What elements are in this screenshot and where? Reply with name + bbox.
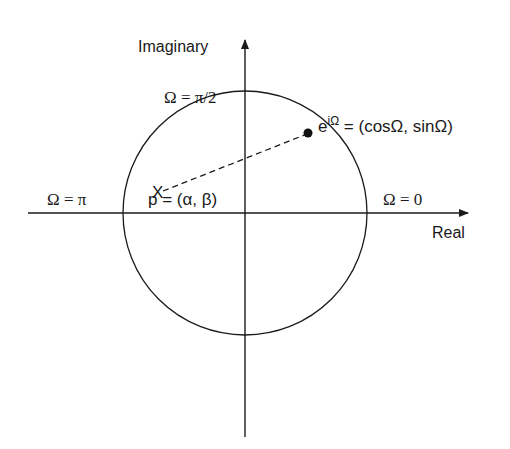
point-on-circle-label: eiΩ = (cosΩ, sinΩ) (318, 114, 453, 136)
unit-circle-diagram: X Imaginary Real Ω = π/2 Ω = π Ω = 0 p =… (0, 0, 510, 449)
exp-base: e (318, 117, 327, 136)
exp-power: iΩ (327, 114, 339, 128)
pole-label: p = (α, β) (148, 190, 217, 209)
point-on-circle-marker (304, 129, 313, 138)
angle-label-left: Ω = π (47, 190, 87, 209)
real-axis-label: Real (432, 224, 465, 241)
dashed-vector (163, 134, 307, 191)
angle-label-right: Ω = 0 (383, 190, 422, 209)
angle-label-top: Ω = π/2 (164, 88, 217, 107)
imaginary-axis-label: Imaginary (138, 38, 208, 55)
exp-rest: = (cosΩ, sinΩ) (339, 117, 453, 136)
